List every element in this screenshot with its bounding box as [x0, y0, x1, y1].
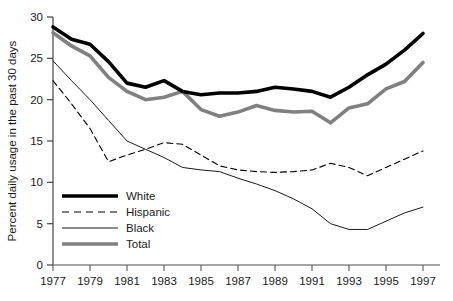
legend-label: Total: [126, 238, 150, 250]
x-tick: 1977: [40, 265, 66, 287]
y-tick-label: 0: [37, 259, 43, 271]
y-tick-label: 10: [30, 176, 43, 188]
y-tick-label: 20: [30, 94, 43, 106]
x-tick: 1995: [373, 265, 399, 287]
x-tick-label: 1979: [77, 275, 103, 287]
x-tick-label: 1985: [188, 275, 214, 287]
chart-container: Percent daily usage in the past 30 days …: [0, 0, 453, 301]
legend-label: White: [126, 190, 155, 202]
x-tick: 1985: [188, 265, 214, 287]
y-tick: 0: [37, 259, 53, 271]
x-tick: 1983: [151, 265, 177, 287]
series-layer: [53, 27, 423, 230]
legend-item-white: White: [62, 190, 155, 202]
series-line-black: [53, 61, 423, 230]
x-tick: 1989: [262, 265, 288, 287]
y-tick-label: 25: [30, 52, 43, 64]
x-tick: 1991: [299, 265, 325, 287]
y-tick: 25: [30, 52, 53, 64]
y-tick: 10: [30, 176, 53, 188]
line-chart: Percent daily usage in the past 30 days …: [0, 0, 453, 301]
legend-item-black: Black: [62, 222, 154, 234]
legend-item-total: Total: [62, 238, 150, 250]
y-tick-label: 30: [30, 11, 43, 23]
legend-item-hispanic: Hispanic: [62, 206, 170, 218]
x-tick: 1981: [114, 265, 140, 287]
y-axis-title: Percent daily usage in the past 30 days: [6, 40, 18, 241]
x-tick: 1979: [77, 265, 103, 287]
x-tick-label: 1981: [114, 275, 140, 287]
x-tick: 1997: [410, 265, 436, 287]
x-tick-label: 1987: [225, 275, 251, 287]
x-tick-label: 1997: [410, 275, 436, 287]
x-tick: 1993: [336, 265, 362, 287]
x-tick-label: 1977: [40, 275, 66, 287]
x-tick-label: 1983: [151, 275, 177, 287]
legend-label: Black: [126, 222, 154, 234]
legend: White Hispanic Black Total: [62, 190, 170, 250]
series-line-total: [53, 33, 423, 123]
series-line-white: [53, 27, 423, 97]
y-tick-group: 0 5 10 15 20 25: [30, 11, 53, 271]
legend-label: Hispanic: [126, 206, 170, 218]
x-tick-label: 1995: [373, 275, 399, 287]
x-tick: 1987: [225, 265, 251, 287]
x-tick-label: 1993: [336, 275, 362, 287]
y-tick-label: 5: [37, 218, 43, 230]
x-tick-label: 1991: [299, 275, 325, 287]
y-tick: 20: [30, 94, 53, 106]
x-tick-group: 1977 1979 1981 1983 1985 1987: [40, 265, 436, 287]
y-tick: 30: [30, 11, 53, 23]
y-tick: 15: [30, 135, 53, 147]
y-tick: 5: [37, 218, 53, 230]
series-line-hispanic: [53, 81, 423, 176]
y-tick-label: 15: [30, 135, 43, 147]
x-tick-label: 1989: [262, 275, 288, 287]
